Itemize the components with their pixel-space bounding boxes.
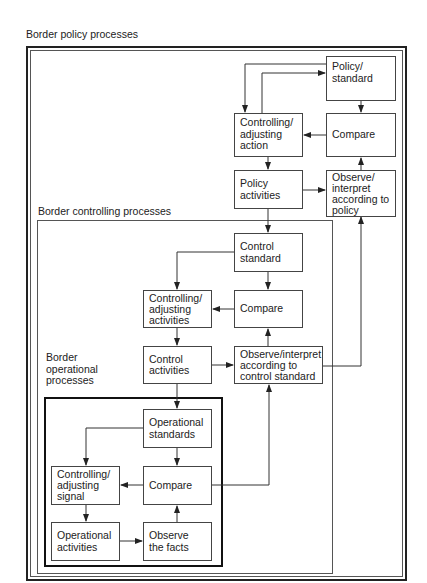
arrow-policy-standard-to-action (245, 64, 326, 112)
node-policy-activities: Policy activities (234, 170, 303, 209)
node-policy-adjusting-action: Controlling/ adjusting action (234, 113, 303, 157)
node-policy-observe: Observe/ interpret according to policy (326, 170, 396, 217)
node-policy-compare: Compare (326, 113, 396, 157)
node-operational-observe: Observe the facts (143, 522, 212, 561)
node-control-observe: Observe/interpret according to control s… (234, 346, 323, 384)
node-policy-standard: Policy/ standard (326, 56, 396, 101)
arrow-control-standard-to-adjusting (177, 252, 234, 289)
node-control-activities: Control activities (143, 346, 212, 384)
node-control-compare: Compare (234, 290, 303, 328)
node-operational-compare: Compare (143, 466, 212, 505)
arrow-control-observe-to-policy-observe (323, 217, 361, 366)
arrow-op-standards-to-signal (86, 428, 143, 465)
node-control-standard: Control standard (234, 233, 303, 272)
node-operational-adjusting-signal: Controlling/ adjusting signal (51, 466, 120, 505)
arrow-action-to-policy-standard (262, 73, 325, 113)
node-operational-standards: Operational standards (143, 409, 212, 448)
node-control-adjusting-activities: Controlling/ adjusting activities (143, 290, 212, 328)
node-operational-activities: Operational activities (51, 522, 120, 561)
arrow-op-compare-to-control-observe (212, 385, 269, 485)
